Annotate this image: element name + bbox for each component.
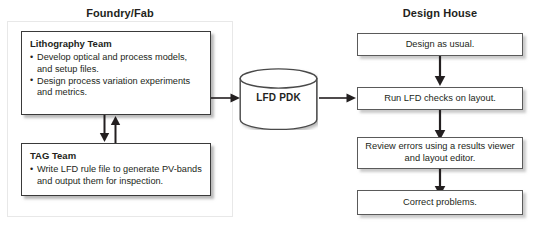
process-box-correct-problems[interactable]: Correct problems.: [357, 190, 523, 215]
arrow-tag-to-lithography: [110, 115, 121, 143]
lithography-team-box[interactable]: Lithography Team Develop optical and pro…: [21, 31, 211, 115]
lithography-team-content: Lithography Team Develop optical and pro…: [22, 32, 210, 103]
tag-team-content: TAG Team Write LFD rule file to generate…: [22, 144, 210, 192]
process-box-design-as-usual[interactable]: Design as usual.: [357, 33, 523, 56]
tag-team-box[interactable]: TAG Team Write LFD rule file to generate…: [21, 143, 211, 196]
process-box-run-lfd-checks[interactable]: Run LFD checks on layout.: [357, 87, 523, 110]
process-box-review-errors[interactable]: Review errors using a results viewer and…: [357, 137, 523, 169]
arrow-foundry-to-pdk: [211, 91, 241, 105]
column-heading-foundry: Foundry/Fab: [0, 7, 240, 19]
arrow-design-to-run-checks: [434, 56, 446, 87]
arrow-lithography-to-tag: [99, 115, 110, 143]
lithography-team-bullets: Develop optical and process models, and …: [30, 52, 202, 99]
tag-team-title: TAG Team: [30, 150, 202, 162]
lfd-pdk-label: LFD PDK: [239, 92, 318, 103]
lithography-team-title: Lithography Team: [30, 38, 202, 50]
list-item: Design process variation experiments and…: [30, 76, 202, 99]
list-item: Write LFD rule file to generate PV-bands…: [30, 164, 202, 187]
lfd-pdk-database[interactable]: LFD PDK: [239, 68, 318, 130]
diagram-canvas: Foundry/Fab Design House Lithography Tea…: [0, 0, 547, 229]
list-item: Develop optical and process models, and …: [30, 52, 202, 75]
arrow-pdk-to-design-house: [319, 91, 357, 105]
column-heading-design-house: Design House: [357, 7, 523, 19]
tag-team-bullets: Write LFD rule file to generate PV-bands…: [30, 164, 202, 187]
